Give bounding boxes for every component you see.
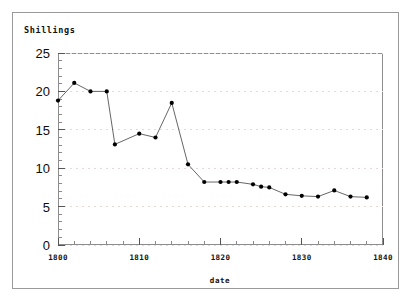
data-point-marker <box>137 132 141 136</box>
x-tick-label: 1820 <box>201 253 241 262</box>
x-tick-label: 1800 <box>38 253 78 262</box>
data-point-marker <box>186 162 190 166</box>
data-point-marker <box>316 195 320 199</box>
x-tick-label: 1840 <box>363 253 403 262</box>
data-point-marker <box>235 180 239 184</box>
data-point-marker <box>153 135 157 139</box>
x-axis-title: date <box>160 276 280 285</box>
data-point-marker <box>251 182 255 186</box>
data-point-marker <box>267 185 271 189</box>
data-point-marker <box>88 89 92 93</box>
x-ticks-group <box>58 238 383 245</box>
data-point-marker <box>218 180 222 184</box>
data-line-group <box>58 83 367 197</box>
y-tick-label: 5 <box>22 199 50 214</box>
data-point-marker <box>227 180 231 184</box>
y-tick-label: 0 <box>22 238 50 253</box>
series-line <box>58 83 367 197</box>
data-point-marker <box>365 195 369 199</box>
data-point-marker <box>113 142 117 146</box>
data-point-marker <box>332 188 336 192</box>
y-tick-label: 10 <box>22 161 50 176</box>
data-point-marker <box>105 89 109 93</box>
data-point-marker <box>259 185 263 189</box>
chart-figure: Shillings 0510152025 1800181018201830184… <box>0 0 418 307</box>
x-tick-label: 1810 <box>119 253 159 262</box>
y-tick-label: 25 <box>22 46 50 61</box>
y-tick-label: 15 <box>22 122 50 137</box>
x-tick-label: 1830 <box>282 253 322 262</box>
data-point-marker <box>283 192 287 196</box>
data-point-marker <box>202 180 206 184</box>
data-point-marker <box>300 194 304 198</box>
y-tick-label: 20 <box>22 84 50 99</box>
gridlines-group <box>58 53 383 245</box>
data-point-marker <box>348 195 352 199</box>
data-point-marker <box>170 101 174 105</box>
data-point-marker <box>72 81 76 85</box>
data-point-marker <box>56 99 60 103</box>
y-ticks-group <box>58 53 65 245</box>
